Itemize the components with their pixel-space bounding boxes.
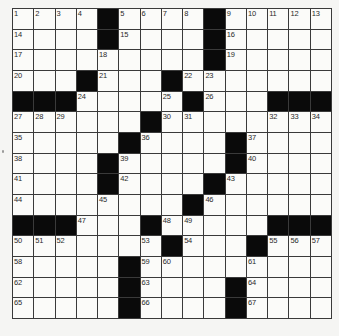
grid-cell[interactable]: 5: [119, 9, 140, 30]
grid-cell[interactable]: [183, 174, 204, 195]
grid-cell[interactable]: [226, 257, 247, 278]
grid-cell[interactable]: [247, 30, 268, 51]
grid-cell[interactable]: 28: [34, 112, 55, 133]
grid-cell[interactable]: 27: [13, 112, 34, 133]
grid-cell[interactable]: [183, 133, 204, 154]
grid-cell[interactable]: [183, 50, 204, 71]
grid-cell[interactable]: [119, 112, 140, 133]
grid-cell[interactable]: [226, 112, 247, 133]
grid-cell[interactable]: 10: [247, 9, 268, 30]
grid-cell[interactable]: [56, 195, 77, 216]
grid-cell[interactable]: [119, 50, 140, 71]
grid-cell[interactable]: [289, 257, 310, 278]
grid-cell[interactable]: [289, 71, 310, 92]
grid-cell[interactable]: [162, 278, 183, 299]
grid-cell[interactable]: [77, 298, 98, 319]
grid-cell[interactable]: 65: [13, 298, 34, 319]
grid-cell[interactable]: 50: [13, 236, 34, 257]
grid-cell[interactable]: [289, 30, 310, 51]
grid-cell[interactable]: [98, 278, 119, 299]
grid-cell[interactable]: 45: [98, 195, 119, 216]
grid-cell[interactable]: 35: [13, 133, 34, 154]
grid-cell[interactable]: [268, 298, 289, 319]
grid-cell[interactable]: [56, 133, 77, 154]
grid-cell[interactable]: [34, 50, 55, 71]
grid-cell[interactable]: 49: [183, 216, 204, 237]
grid-cell[interactable]: [34, 298, 55, 319]
grid-cell[interactable]: [204, 154, 225, 175]
grid-cell[interactable]: 20: [13, 71, 34, 92]
grid-cell[interactable]: [162, 50, 183, 71]
grid-cell[interactable]: [204, 278, 225, 299]
grid-cell[interactable]: [311, 298, 332, 319]
grid-cell[interactable]: [77, 30, 98, 51]
grid-cell[interactable]: [311, 133, 332, 154]
grid-cell[interactable]: [141, 30, 162, 51]
grid-cell[interactable]: [34, 154, 55, 175]
grid-cell[interactable]: [119, 92, 140, 113]
grid-cell[interactable]: [141, 92, 162, 113]
grid-cell[interactable]: 51: [34, 236, 55, 257]
grid-cell[interactable]: 1: [13, 9, 34, 30]
grid-cell[interactable]: [77, 236, 98, 257]
grid-cell[interactable]: 67: [247, 298, 268, 319]
grid-cell[interactable]: [141, 50, 162, 71]
grid-cell[interactable]: [311, 174, 332, 195]
grid-cell[interactable]: [204, 236, 225, 257]
grid-cell[interactable]: 8: [183, 9, 204, 30]
grid-cell[interactable]: [226, 195, 247, 216]
grid-cell[interactable]: 41: [13, 174, 34, 195]
grid-cell[interactable]: [311, 50, 332, 71]
grid-cell[interactable]: [204, 112, 225, 133]
grid-cell[interactable]: 24: [77, 92, 98, 113]
grid-cell[interactable]: [311, 257, 332, 278]
grid-cell[interactable]: 47: [77, 216, 98, 237]
grid-cell[interactable]: 7: [162, 9, 183, 30]
grid-cell[interactable]: [311, 71, 332, 92]
grid-cell[interactable]: [141, 154, 162, 175]
grid-cell[interactable]: [98, 298, 119, 319]
grid-cell[interactable]: [56, 71, 77, 92]
grid-cell[interactable]: 15: [119, 30, 140, 51]
grid-cell[interactable]: [268, 278, 289, 299]
grid-cell[interactable]: [34, 278, 55, 299]
grid-cell[interactable]: [77, 154, 98, 175]
grid-cell[interactable]: 36: [141, 133, 162, 154]
grid-cell[interactable]: [141, 71, 162, 92]
grid-cell[interactable]: [204, 257, 225, 278]
grid-cell[interactable]: 26: [204, 92, 225, 113]
grid-cell[interactable]: [226, 216, 247, 237]
grid-cell[interactable]: [247, 50, 268, 71]
grid-cell[interactable]: [183, 298, 204, 319]
grid-cell[interactable]: [77, 112, 98, 133]
grid-cell[interactable]: 55: [268, 236, 289, 257]
grid-cell[interactable]: [204, 216, 225, 237]
grid-cell[interactable]: 59: [141, 257, 162, 278]
grid-cell[interactable]: [56, 257, 77, 278]
grid-cell[interactable]: [56, 174, 77, 195]
grid-cell[interactable]: 63: [141, 278, 162, 299]
grid-cell[interactable]: 61: [247, 257, 268, 278]
grid-cell[interactable]: 6: [141, 9, 162, 30]
grid-cell[interactable]: 57: [311, 236, 332, 257]
grid-cell[interactable]: 58: [13, 257, 34, 278]
grid-cell[interactable]: 64: [247, 278, 268, 299]
grid-cell[interactable]: [77, 195, 98, 216]
grid-cell[interactable]: [56, 278, 77, 299]
grid-cell[interactable]: [162, 195, 183, 216]
grid-cell[interactable]: 43: [226, 174, 247, 195]
grid-cell[interactable]: [289, 278, 310, 299]
grid-cell[interactable]: [119, 195, 140, 216]
grid-cell[interactable]: [289, 133, 310, 154]
grid-cell[interactable]: [183, 278, 204, 299]
grid-cell[interactable]: 30: [162, 112, 183, 133]
grid-cell[interactable]: 60: [162, 257, 183, 278]
grid-cell[interactable]: 3: [56, 9, 77, 30]
grid-cell[interactable]: [77, 50, 98, 71]
grid-cell[interactable]: [311, 278, 332, 299]
grid-cell[interactable]: 2: [34, 9, 55, 30]
grid-cell[interactable]: 11: [268, 9, 289, 30]
grid-cell[interactable]: [311, 195, 332, 216]
grid-cell[interactable]: [183, 257, 204, 278]
grid-cell[interactable]: 37: [247, 133, 268, 154]
